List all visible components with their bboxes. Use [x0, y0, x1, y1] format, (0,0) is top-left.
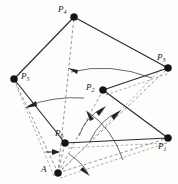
dashed-auxiliary-chords: [16, 64, 170, 178]
label-P1: P1: [158, 142, 167, 151]
polygon-solid-edges: [14, 17, 168, 143]
ray-A-P3: [58, 68, 168, 173]
label-P4: P4: [58, 5, 67, 14]
vertex-P4[interactable]: [70, 13, 77, 20]
dashed-radial-rays: [14, 17, 168, 173]
chord-P5-A-outer: [16, 85, 54, 176]
vertex-P5[interactable]: [10, 75, 17, 82]
label-P6: P6: [55, 129, 64, 138]
geometric-figure: A P1 P2 P3 P4 P5 P6: [0, 0, 178, 184]
tick-arrowhead-P6-left: [52, 149, 60, 155]
vertex-A[interactable]: [54, 169, 61, 176]
arrowhead-P4: [68, 68, 78, 74]
edge-P3-P2: [103, 68, 168, 90]
ray-A-P4: [58, 17, 74, 173]
vertex-P6[interactable]: [61, 139, 68, 146]
ray-A-P6: [58, 143, 65, 173]
edge-P4-P3: [74, 17, 168, 68]
label-P5: P5: [21, 72, 30, 81]
vertex-P1[interactable]: [164, 134, 171, 141]
vertex-P3[interactable]: [164, 64, 171, 71]
chord-P2-P3-aux: [106, 73, 170, 95]
label-A: A: [41, 165, 47, 174]
vertex-P2[interactable]: [99, 86, 106, 93]
vertex-dots: [10, 13, 171, 176]
arrow-heads: [25, 68, 121, 176]
label-P3: P3: [157, 53, 166, 62]
arrowhead-P5: [25, 101, 37, 108]
diagram-canvas: [0, 0, 178, 184]
edge-P5-P4: [14, 17, 74, 79]
arc-P4-sector: [71, 68, 152, 78]
label-P2: P2: [86, 83, 95, 92]
edge-P1-P6: [65, 138, 168, 143]
tick-markers: [46, 149, 60, 155]
edge-P2-P1: [103, 90, 168, 138]
